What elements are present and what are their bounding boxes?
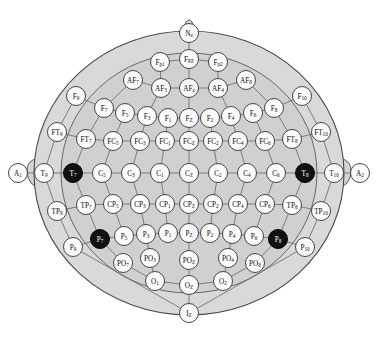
electrode-p5[interactable]: P5 <box>115 227 134 246</box>
electrode-circle[interactable] <box>180 109 199 128</box>
electrode-circle[interactable] <box>229 132 248 151</box>
electrode-p2[interactable]: P2 <box>201 224 220 243</box>
electrode-ft9[interactable]: FT9 <box>48 123 67 142</box>
electrode-c2[interactable]: C2 <box>209 164 228 183</box>
electrode-cp5[interactable]: CP5 <box>104 195 123 214</box>
electrode-circle[interactable] <box>151 53 170 72</box>
electrode-circle[interactable] <box>159 109 178 128</box>
electrode-circle[interactable] <box>180 251 199 270</box>
electrode-circle[interactable] <box>64 164 83 183</box>
electrode-circle[interactable] <box>116 104 135 123</box>
electrode-circle[interactable] <box>214 272 233 291</box>
electrode-t10[interactable]: T10 <box>325 164 344 183</box>
electrode-circle[interactable] <box>219 249 238 268</box>
electrode-circle[interactable] <box>267 164 286 183</box>
electrode-circle[interactable] <box>151 164 170 183</box>
electrode-circle[interactable] <box>265 99 284 118</box>
electrode-fc6[interactable]: FC6 <box>256 132 275 151</box>
electrode-f8[interactable]: F8 <box>265 99 284 118</box>
electrode-ft10[interactable]: FT10 <box>312 123 331 142</box>
electrode-c3[interactable]: C3 <box>122 164 141 183</box>
electrode-circle[interactable] <box>64 238 83 257</box>
electrode-circle[interactable] <box>245 227 264 246</box>
electrode-circle[interactable] <box>48 123 67 142</box>
electrode-afz[interactable]: AFz <box>180 79 199 98</box>
electrode-circle[interactable] <box>114 254 133 273</box>
electrode-nz[interactable]: Nz <box>180 24 199 43</box>
electrode-t8[interactable]: T8 <box>296 164 315 183</box>
electrode-circle[interactable] <box>48 202 67 221</box>
electrode-circle[interactable] <box>91 230 110 249</box>
electrode-p9[interactable]: P9 <box>64 238 83 257</box>
electrode-f9[interactable]: F9 <box>67 87 86 106</box>
electrode-circle[interactable] <box>246 254 265 273</box>
electrode-circle[interactable] <box>201 224 220 243</box>
electrode-circle[interactable] <box>312 123 331 142</box>
electrode-circle[interactable] <box>35 164 54 183</box>
electrode-po8[interactable]: PO8 <box>246 254 265 273</box>
electrode-circle[interactable] <box>256 132 275 151</box>
electrode-pz[interactable]: PZ <box>180 224 199 243</box>
electrode-a2[interactable]: A2 <box>351 164 370 183</box>
electrode-iz[interactable]: IZ <box>180 304 199 323</box>
electrode-circle[interactable] <box>237 71 256 90</box>
electrode-cpz[interactable]: CPZ <box>180 195 199 214</box>
electrode-cp1[interactable]: CP1 <box>156 195 175 214</box>
electrode-p6[interactable]: P6 <box>245 227 264 246</box>
electrode-circle[interactable] <box>93 164 112 183</box>
electrode-circle[interactable] <box>209 164 228 183</box>
electrode-o2[interactable]: O2 <box>214 272 233 291</box>
electrode-t7[interactable]: T7 <box>64 164 83 183</box>
electrode-circle[interactable] <box>269 230 288 249</box>
electrode-circle[interactable] <box>67 87 86 106</box>
electrode-a1[interactable]: A1 <box>9 164 28 183</box>
electrode-circle[interactable] <box>146 272 165 291</box>
electrode-circle[interactable] <box>283 196 302 215</box>
electrode-fp2[interactable]: Fp2 <box>209 53 228 72</box>
electrode-fc3[interactable]: FC3 <box>131 132 150 151</box>
electrode-af8[interactable]: AF8 <box>237 71 256 90</box>
electrode-cz[interactable]: CZ <box>180 164 199 183</box>
electrode-c1[interactable]: C1 <box>151 164 170 183</box>
electrode-circle[interactable] <box>141 249 160 268</box>
electrode-po4[interactable]: PO4 <box>219 249 238 268</box>
electrode-f2[interactable]: F2 <box>201 109 220 128</box>
electrode-fc2[interactable]: FC2 <box>204 132 223 151</box>
electrode-circle[interactable] <box>159 224 178 243</box>
electrode-c6[interactable]: C6 <box>267 164 286 183</box>
electrode-circle[interactable] <box>180 164 199 183</box>
electrode-circle[interactable] <box>201 109 220 128</box>
electrode-circle[interactable] <box>293 87 312 106</box>
electrode-circle[interactable] <box>131 132 150 151</box>
electrode-circle[interactable] <box>223 225 242 244</box>
electrode-circle[interactable] <box>256 195 275 214</box>
electrode-circle[interactable] <box>156 195 175 214</box>
electrode-circle[interactable] <box>244 104 263 123</box>
electrode-af4[interactable]: AF4 <box>209 79 228 98</box>
electrode-circle[interactable] <box>180 304 199 323</box>
electrode-circle[interactable] <box>180 195 199 214</box>
electrode-f4[interactable]: F4 <box>222 107 241 126</box>
electrode-circle[interactable] <box>104 195 123 214</box>
electrode-fcz[interactable]: FCZ <box>180 132 199 151</box>
electrode-circle[interactable] <box>180 276 199 295</box>
electrode-af7[interactable]: AF7 <box>124 71 143 90</box>
electrode-fc4[interactable]: FC4 <box>229 132 248 151</box>
electrode-ft7[interactable]: FT7 <box>77 130 96 149</box>
electrode-circle[interactable] <box>104 132 123 151</box>
electrode-c5[interactable]: C5 <box>93 164 112 183</box>
electrode-circle[interactable] <box>325 164 344 183</box>
electrode-cp2[interactable]: CP2 <box>204 195 223 214</box>
electrode-circle[interactable] <box>180 79 199 98</box>
electrode-circle[interactable] <box>180 132 199 151</box>
electrode-p8[interactable]: P8 <box>269 230 288 249</box>
electrode-f3[interactable]: F3 <box>138 107 157 126</box>
electrode-po7[interactable]: PO7 <box>114 254 133 273</box>
electrode-circle[interactable] <box>209 53 228 72</box>
electrode-tp10[interactable]: TP10 <box>312 202 331 221</box>
electrode-fp1[interactable]: Fp1 <box>151 53 170 72</box>
electrode-fc1[interactable]: FC1 <box>156 132 175 151</box>
electrode-p1[interactable]: P1 <box>159 224 178 243</box>
electrode-circle[interactable] <box>122 164 141 183</box>
electrode-circle[interactable] <box>95 99 114 118</box>
